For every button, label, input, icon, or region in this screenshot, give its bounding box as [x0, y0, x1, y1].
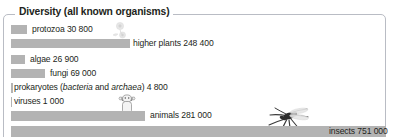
bar-fungi — [11, 69, 45, 79]
bar-algae — [11, 55, 25, 65]
label-part: prokaryotes ( — [14, 82, 63, 92]
bar-animals — [11, 111, 145, 121]
bar-protozoa — [11, 25, 27, 35]
bar-label-insects: insects 751 000 — [329, 126, 388, 137]
bar-label-protozoa: protozoa 30 800 — [32, 25, 93, 35]
bar-label-fungi: fungi 69 000 — [50, 69, 96, 79]
label-italic-archaea: archaea — [111, 82, 141, 92]
label-part: and — [93, 82, 112, 92]
bar-label-algae: algae 26 900 — [30, 55, 79, 65]
bar-higher-plants — [11, 39, 130, 49]
diversity-bar-chart: protozoa 30 800 higher plants 248 400 al… — [0, 0, 401, 137]
bar-label-animals: animals 281 000 — [150, 111, 212, 121]
bar-label-viruses: viruses 1 000 — [14, 97, 64, 107]
label-part: ) 4 800 — [142, 82, 168, 92]
bar-label-prokaryotes: prokaryotes (bacteria and archaea) 4 800 — [14, 83, 168, 93]
bar-label-higher-plants: higher plants 248 400 — [133, 39, 214, 49]
bar-prokaryotes — [11, 83, 13, 93]
label-italic-bacteria: bacteria — [63, 82, 93, 92]
page-title: Diversity (all known organisms) — [15, 6, 173, 17]
bar-viruses — [11, 97, 12, 107]
